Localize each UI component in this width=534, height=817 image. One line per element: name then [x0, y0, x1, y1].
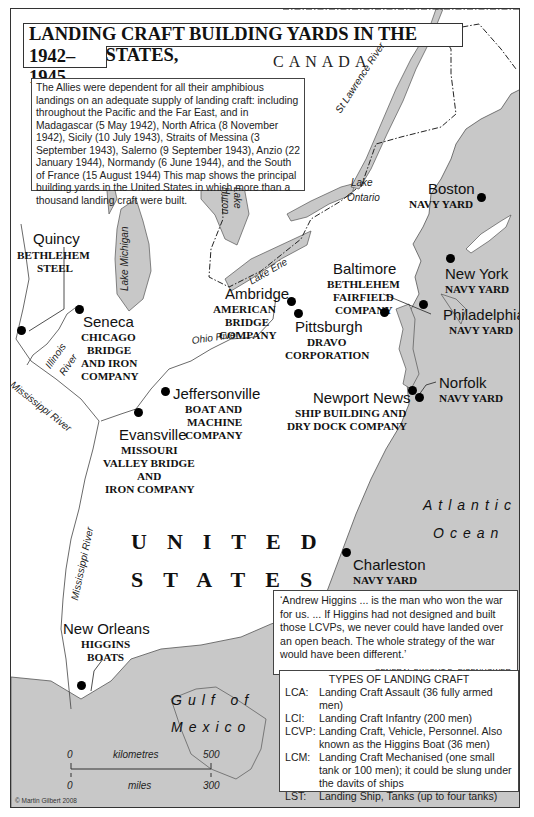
lake-huron-label-2: Huron [220, 187, 231, 214]
quincy-marker[interactable] [17, 326, 26, 335]
charleston-company: NAVY YARD [353, 574, 417, 587]
united-label: UNITED [131, 529, 337, 555]
baltimore-company-2: FAIRFIELD [333, 291, 394, 304]
copyright: © Martin Gilbert 2008 [15, 797, 77, 804]
types-row-lci: LCI: Landing Craft Infantry (200 men) [285, 712, 513, 725]
types-desc: Landing Craft Assault (36 fully armed me… [319, 686, 513, 712]
types-desc: Landing Craft, Vehicle, Personnel. Also … [319, 725, 513, 751]
charleston-marker[interactable] [342, 548, 351, 557]
gulf-label: Gulf of [171, 692, 254, 708]
ambridge-company-2: BRIDGE [225, 316, 269, 329]
title-box: LANDING CRAFT BUILDING YARDS IN THE UNIT… [23, 23, 463, 47]
jeffersonville-marker[interactable] [161, 387, 170, 396]
landing-craft-types-box: TYPES OF LANDING CRAFT LCA: Landing Craf… [279, 670, 519, 792]
charleston-city: Charleston [353, 557, 426, 573]
evansville-company-4: IRON COMPANY [105, 483, 195, 496]
philadelphia-marker[interactable] [419, 300, 428, 309]
jeffersonville-company-3: COMPANY [185, 429, 243, 442]
new-orleans-marker[interactable] [77, 681, 86, 690]
norfolk-city: Norfolk [439, 375, 487, 391]
types-desc: Landing Craft Mechanised (one small tank… [319, 751, 513, 790]
ambridge-city: Ambridge [225, 286, 289, 302]
seneca-company-4: COMPANY [81, 370, 139, 383]
norfolk-company: NAVY YARD [439, 392, 503, 405]
ocean-label: Ocean [433, 525, 504, 541]
new-york-company: NAVY YARD [445, 283, 509, 296]
types-row-lca: LCA: Landing Craft Assault (36 fully arm… [285, 686, 513, 712]
scale-mi-start: 0 [67, 780, 73, 791]
pittsburgh-city: Pittsburgh [295, 319, 363, 335]
pittsburgh-company-2: CORPORATION [285, 349, 369, 362]
philadelphia-city: Philadelphia [443, 307, 520, 323]
boston-company: NAVY YARD [409, 198, 473, 211]
types-row-lcm: LCM: Landing Craft Mechanised (one small… [285, 751, 513, 790]
mexico-label: Mexico [171, 719, 251, 735]
eisenhower-quote-box: ‘Andrew Higgins ... is the man who won t… [273, 590, 518, 675]
ambridge-company-3: COMPANY [219, 329, 277, 342]
boston-marker[interactable] [477, 193, 486, 202]
types-abbr: LCVP: [285, 725, 319, 751]
intro-text: The Allies were dependent for all their … [36, 82, 300, 206]
evansville-company-1: MISSOURI [121, 444, 178, 457]
evansville-company-2: VALLEY BRIDGE [103, 457, 195, 470]
seneca-company-1: CHICAGO [81, 331, 136, 344]
new-york-city: New York [445, 266, 508, 282]
types-abbr: LCI: [285, 712, 319, 725]
map-frame: LANDING CRAFT BUILDING YARDS IN THE UNIT… [10, 8, 520, 808]
lake-ontario-label-2: Ontario [347, 192, 380, 203]
intro-text-box: The Allies were dependent for all their … [31, 78, 305, 191]
lake-ontario-label-1: Lake [351, 177, 373, 188]
newport-news-company-1: SHIP BUILDING AND [295, 407, 406, 420]
boston-city: Boston [428, 181, 475, 197]
new-orleans-city: New Orleans [63, 621, 150, 637]
types-title: TYPES OF LANDING CRAFT [285, 673, 513, 686]
philadelphia-company: NAVY YARD [449, 324, 513, 337]
pittsburgh-marker[interactable] [294, 309, 303, 318]
lake-huron-label-1: Lake [232, 187, 243, 209]
newport-news-city: Newport News [313, 390, 411, 406]
evansville-marker[interactable] [134, 408, 143, 417]
baltimore-company-1: BETHLEHEM [327, 278, 400, 291]
quincy-company-2: STEEL [37, 262, 73, 275]
scale-mi-label: miles [128, 780, 151, 791]
scale-km-start: 0 [67, 749, 73, 760]
scale-mi-end: 300 [203, 780, 220, 791]
jeffersonville-company-1: BOAT AND [185, 403, 242, 416]
seneca-city: Seneca [83, 314, 134, 330]
types-abbr: LCM: [285, 751, 319, 790]
types-abbr: LST: [285, 790, 319, 803]
quincy-company-1: BETHLEHEM [17, 249, 90, 262]
new-york-marker[interactable] [446, 254, 455, 263]
ambridge-company-1: AMERICAN [213, 303, 276, 316]
scale-km-end: 500 [203, 749, 220, 760]
baltimore-city: Baltimore [333, 261, 396, 277]
pittsburgh-company-1: DRAVO [307, 336, 346, 349]
title-box-year: 1942–1945 [23, 46, 107, 68]
seneca-company-3: AND IRON [81, 357, 137, 370]
baltimore-marker[interactable] [380, 308, 389, 317]
scale-km-label: kilometres [113, 749, 159, 760]
new-orleans-company-1: HIGGINS [81, 638, 130, 651]
newport-news-company-2: DRY DOCK COMPANY [287, 420, 407, 433]
types-desc: Landing Craft Infantry (200 men) [319, 712, 472, 725]
new-orleans-company-2: BOATS [87, 651, 124, 664]
types-desc: Landing Ship, Tanks (up to four tanks) [319, 790, 497, 803]
evansville-company-3: AND [137, 470, 161, 483]
types-row-lcvp: LCVP: Landing Craft, Vehicle, Personnel.… [285, 725, 513, 751]
jeffersonville-company-2: MACHINE [187, 416, 242, 429]
atlantic-label: Atlantic [423, 497, 517, 513]
lake-michigan-label: Lake Michigan [119, 227, 130, 291]
quincy-city: Quincy [33, 231, 80, 247]
quote-text: ‘Andrew Higgins ... is the man who won t… [280, 594, 503, 660]
norfolk-marker[interactable] [415, 393, 424, 402]
types-row-lst: LST: Landing Ship, Tanks (up to four tan… [285, 790, 513, 803]
seneca-company-2: BRIDGE [87, 344, 131, 357]
jeffersonville-city: Jeffersonville [173, 386, 260, 402]
ambridge-marker[interactable] [287, 297, 296, 306]
evansville-city: Evansville [119, 427, 187, 443]
canada-label: CANADA [273, 53, 371, 71]
types-abbr: LCA: [285, 686, 319, 712]
